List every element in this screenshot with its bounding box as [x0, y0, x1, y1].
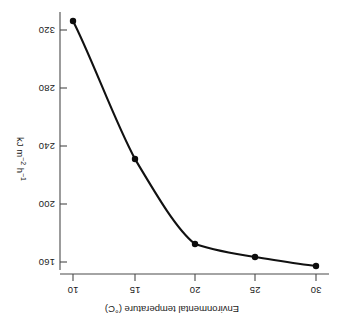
- x-axis-title: Environmental temperature (°C): [105, 304, 239, 315]
- y-tick-label-280: 280: [39, 83, 55, 94]
- y-tick-label-240: 240: [39, 141, 55, 152]
- x-tick-label-15: 15: [130, 285, 141, 296]
- x-tick-label-25: 25: [250, 285, 261, 296]
- data-point: [70, 18, 76, 24]
- data-point: [313, 263, 319, 269]
- data-point: [252, 254, 258, 260]
- y-tick-label-160: 160: [39, 257, 55, 268]
- chart-figure: 30 25 20 15 10 160 200 240 280 320 Envir…: [0, 0, 343, 318]
- x-tick-label-10: 10: [68, 285, 79, 296]
- x-tick-label-30: 30: [311, 285, 322, 296]
- y-tick-label-200: 200: [39, 199, 55, 210]
- y-axis-title: kJ m−2 h−1: [15, 137, 27, 181]
- y-tick-label-320: 320: [39, 25, 55, 36]
- data-point: [192, 241, 198, 247]
- data-point: [132, 156, 138, 162]
- y-axis-title-exponent-2: −1: [20, 173, 27, 181]
- y-axis-title-exponent-1: −2: [20, 157, 27, 165]
- data-curve: [73, 21, 316, 266]
- x-tick-label-20: 20: [190, 285, 201, 296]
- y-axis-title-base-2: h: [15, 165, 26, 173]
- plot-canvas: [0, 0, 343, 318]
- y-axis-title-base-1: kJ m: [15, 137, 26, 157]
